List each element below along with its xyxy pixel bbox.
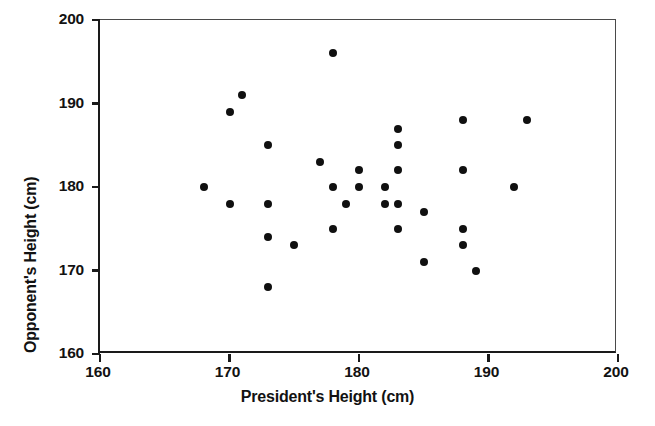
data-point [329,183,337,191]
data-point [381,200,389,208]
y-tick-mark [92,19,100,22]
data-point [510,183,518,191]
data-point [472,267,480,275]
data-point [342,200,350,208]
y-tick-label: 170 [38,261,84,279]
data-point [264,283,272,291]
data-point [226,200,234,208]
y-tick-mark [92,186,100,189]
y-tick-mark [92,102,100,105]
scatter-plot-figure: 160170180190200 160170180190200 Presiden… [0,0,655,426]
y-tick-label: 180 [38,177,84,195]
x-tick-mark [358,354,361,362]
data-point [290,241,298,249]
plot-area [98,19,616,353]
x-tick-mark [487,354,490,362]
x-tick-label: 170 [205,363,251,381]
data-point [329,225,337,233]
x-tick-label: 180 [334,363,380,381]
x-tick-mark [617,354,620,362]
y-tick-label: 200 [38,10,84,28]
data-point [355,166,363,174]
x-axis-title: President's Height (cm) [0,388,655,406]
data-point [420,258,428,266]
x-tick-label: 200 [593,363,639,381]
y-tick-label: 190 [38,94,84,112]
data-point [459,225,467,233]
data-point [523,116,531,124]
data-point [264,233,272,241]
data-point [459,116,467,124]
data-point [394,225,402,233]
x-tick-mark [228,354,231,362]
data-point [394,200,402,208]
data-point [394,166,402,174]
data-point [394,125,402,133]
x-tick-label: 190 [464,363,510,381]
data-point [355,183,363,191]
data-point [238,91,246,99]
y-tick-mark [92,269,100,272]
data-point [226,108,234,116]
data-point [459,241,467,249]
y-tick-label: 160 [38,344,84,362]
data-point [200,183,208,191]
x-tick-mark [99,354,102,362]
y-axis-title: Opponent's Height (cm) [22,177,40,353]
data-point [264,141,272,149]
data-point [420,208,428,216]
data-point [316,158,324,166]
data-point [329,49,337,57]
data-point [264,200,272,208]
data-point [459,166,467,174]
x-tick-label: 160 [75,363,121,381]
data-point [381,183,389,191]
data-point [394,141,402,149]
data-points-layer [100,20,615,351]
